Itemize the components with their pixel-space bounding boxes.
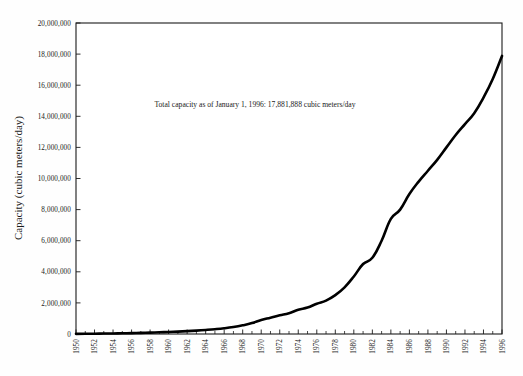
x-tick-label: 1970 xyxy=(258,339,266,354)
x-tick-label: 1962 xyxy=(184,339,192,354)
y-tick-label: 16,000,000 xyxy=(38,82,72,90)
x-tick-label: 1984 xyxy=(387,339,395,354)
x-tick-label: 1964 xyxy=(202,339,210,354)
y-tick-label: 6,000,000 xyxy=(41,237,71,245)
x-tick-label: 1966 xyxy=(221,339,229,354)
plot-frame xyxy=(76,23,502,334)
capacity-line-chart: 02,000,0004,000,0006,000,0008,000,00010,… xyxy=(0,0,523,376)
x-tick-label: 1982 xyxy=(369,339,377,354)
y-tick-label: 0 xyxy=(67,331,71,339)
x-tick-label: 1956 xyxy=(128,339,136,354)
x-tick-label: 1990 xyxy=(443,339,451,354)
x-tick-label: 1986 xyxy=(406,339,414,354)
x-tick-label: 1954 xyxy=(110,339,118,354)
x-tick-label: 1972 xyxy=(276,339,284,354)
chart-annotation: Total capacity as of January 1, 1996: 17… xyxy=(154,100,355,109)
x-tick-label: 1958 xyxy=(147,339,155,354)
y-axis-title: Capacity (cubic meters/day) xyxy=(12,116,25,240)
x-tick-label: 1960 xyxy=(165,339,173,354)
y-tick-label: 14,000,000 xyxy=(38,113,72,121)
x-tick-label: 1994 xyxy=(480,339,488,354)
y-tick-label: 12,000,000 xyxy=(38,144,72,152)
chart-figure: 02,000,0004,000,0006,000,0008,000,00010,… xyxy=(0,0,523,376)
x-tick-label: 1968 xyxy=(239,339,247,354)
y-tick-label: 2,000,000 xyxy=(41,300,71,308)
y-tick-label: 10,000,000 xyxy=(38,175,72,183)
x-tick-label: 1988 xyxy=(425,339,433,354)
x-tick-label: 1980 xyxy=(350,339,358,354)
y-tick-label: 8,000,000 xyxy=(41,206,71,214)
x-tick-label: 1976 xyxy=(313,339,321,354)
y-tick-label: 20,000,000 xyxy=(38,20,72,28)
y-tick-label: 4,000,000 xyxy=(41,268,71,276)
x-tick-label: 1978 xyxy=(332,339,340,354)
y-axis: 02,000,0004,000,0006,000,0008,000,00010,… xyxy=(38,20,81,339)
x-tick-label: 1974 xyxy=(295,339,303,354)
x-tick-label: 1952 xyxy=(91,339,99,354)
x-tick-label: 1950 xyxy=(73,339,81,354)
y-tick-label: 18,000,000 xyxy=(38,51,72,59)
x-tick-label: 1996 xyxy=(499,339,507,354)
x-tick-label: 1992 xyxy=(462,339,470,354)
plot-area xyxy=(76,23,502,334)
